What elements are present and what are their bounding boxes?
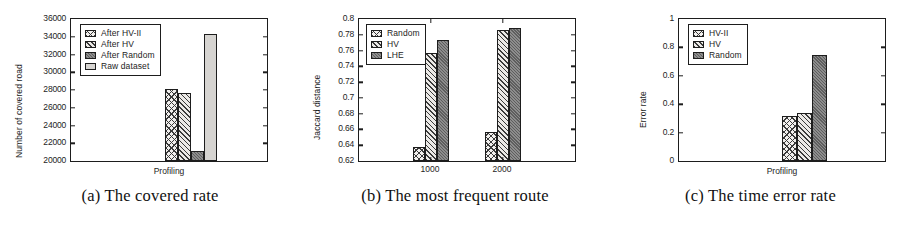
y-tick-mark bbox=[263, 72, 267, 73]
y-tick-label: 0.2 bbox=[663, 127, 674, 136]
bar-hv bbox=[797, 113, 812, 161]
y-tick-mark bbox=[263, 89, 267, 90]
bar-after-hv-ii bbox=[165, 89, 178, 161]
y-tick-label: 26000 bbox=[43, 103, 66, 112]
bar-after-random bbox=[191, 151, 204, 161]
y-tick-label: 24000 bbox=[43, 120, 66, 129]
legend-swatch-dark-icon bbox=[693, 52, 704, 59]
y-tick-label: 0.8 bbox=[663, 42, 674, 51]
x-tick-mark bbox=[502, 19, 503, 23]
panel-c-caption: (c) The time error rate bbox=[610, 186, 911, 206]
bar-raw-dataset bbox=[204, 34, 217, 161]
legend-item: HV bbox=[693, 39, 742, 50]
bar-random bbox=[413, 147, 425, 161]
y-tick-label: 0.66 bbox=[338, 124, 354, 133]
y-tick-mark bbox=[359, 50, 363, 51]
x-tick-mark bbox=[430, 157, 431, 161]
legend-label: After HV bbox=[101, 40, 134, 49]
y-tick-mark bbox=[263, 36, 267, 37]
legend-label: HV-II bbox=[709, 29, 728, 38]
legend-item: After Random bbox=[85, 50, 155, 61]
y-tick-mark bbox=[263, 143, 267, 144]
y-tick-mark bbox=[359, 145, 363, 146]
legend-label: Random bbox=[387, 29, 420, 38]
figure-panel-b: Jaccard distance 0.620.640.660.680.70.72… bbox=[300, 0, 610, 230]
y-tick-mark bbox=[881, 75, 885, 76]
y-tick-mark bbox=[881, 103, 885, 104]
y-tick-label: 0.8 bbox=[343, 14, 354, 23]
bar-lhe bbox=[437, 40, 449, 161]
y-tick-mark bbox=[263, 54, 267, 55]
legend-swatch-light-icon bbox=[85, 63, 96, 70]
legend-item: HV bbox=[371, 39, 420, 50]
x-tick-label: 2000 bbox=[493, 164, 512, 174]
y-tick-mark bbox=[571, 81, 575, 82]
bar-hv bbox=[425, 53, 437, 161]
y-tick-label: 34000 bbox=[43, 32, 66, 41]
y-tick-mark bbox=[571, 66, 575, 67]
y-tick-mark bbox=[71, 72, 75, 73]
y-tick-mark bbox=[359, 113, 363, 114]
y-tick-mark bbox=[571, 129, 575, 130]
legend-swatch-crosshatch-icon bbox=[371, 30, 382, 37]
panel-c-x-tick-label: Profiling bbox=[767, 166, 798, 176]
legend-item: LHE bbox=[371, 50, 420, 61]
x-tick-mark bbox=[502, 157, 503, 161]
panel-b-caption: (b) The most frequent route bbox=[300, 186, 610, 206]
y-tick-label: 0.72 bbox=[338, 77, 354, 86]
figure-panel-a: Number of covered road 20000220002400026… bbox=[0, 0, 300, 230]
y-tick-label: 30000 bbox=[43, 67, 66, 76]
y-tick-mark bbox=[571, 34, 575, 35]
y-tick-label: 0.64 bbox=[338, 140, 354, 149]
legend-swatch-hatch-icon bbox=[371, 41, 382, 48]
legend-item: After HV-II bbox=[85, 28, 155, 39]
legend-label: LHE bbox=[387, 51, 404, 60]
bar-hv bbox=[497, 30, 509, 161]
y-tick-label: 0.7 bbox=[343, 93, 354, 102]
y-tick-mark bbox=[359, 129, 363, 130]
legend-label: Random bbox=[709, 51, 742, 60]
y-tick-label: 22000 bbox=[43, 138, 66, 147]
y-tick-mark bbox=[359, 66, 363, 67]
y-tick-mark bbox=[71, 107, 75, 108]
legend-label: After HV-II bbox=[101, 29, 141, 38]
x-tick-mark bbox=[430, 19, 431, 23]
y-tick-label: 32000 bbox=[43, 49, 66, 58]
legend-swatch-dark-icon bbox=[85, 52, 96, 59]
y-tick-label: 36000 bbox=[43, 14, 66, 23]
y-tick-mark bbox=[359, 34, 363, 35]
bar-hv-ii bbox=[782, 116, 797, 161]
panel-a-plot-area: After HV-II After HV After Random Raw da… bbox=[70, 18, 268, 162]
y-tick-mark bbox=[679, 47, 683, 48]
panel-c-plot-area: HV-II HV Random bbox=[678, 18, 886, 162]
y-tick-label: 0.6 bbox=[663, 71, 674, 80]
panel-a-legend: After HV-II After HV After Random Raw da… bbox=[80, 24, 161, 76]
y-tick-mark bbox=[263, 107, 267, 108]
y-tick-label: 20000 bbox=[43, 156, 66, 165]
legend-label: HV bbox=[709, 40, 721, 49]
legend-item: Random bbox=[693, 50, 742, 61]
legend-swatch-hatch-icon bbox=[85, 41, 96, 48]
y-tick-mark bbox=[71, 89, 75, 90]
y-tick-label: 0.74 bbox=[338, 61, 354, 70]
panel-a-x-tick-label: Profiling bbox=[154, 166, 185, 176]
figure-row: Number of covered road 20000220002400026… bbox=[0, 0, 911, 230]
y-tick-mark bbox=[679, 75, 683, 76]
legend-item: Raw dataset bbox=[85, 61, 155, 72]
y-tick-mark bbox=[359, 81, 363, 82]
legend-label: HV bbox=[387, 40, 399, 49]
y-tick-label: 0.4 bbox=[663, 99, 674, 108]
bar-random bbox=[485, 132, 497, 161]
y-tick-mark bbox=[71, 125, 75, 126]
panel-a-y-tick-labels: 2000022000240002600028000300003200034000… bbox=[22, 0, 66, 160]
y-tick-mark bbox=[679, 132, 683, 133]
y-tick-label: 0.78 bbox=[338, 30, 354, 39]
y-tick-mark bbox=[881, 132, 885, 133]
y-tick-mark bbox=[571, 113, 575, 114]
legend-swatch-hatch-icon bbox=[693, 41, 704, 48]
legend-swatch-crosshatch-icon bbox=[693, 30, 704, 37]
legend-item: After HV bbox=[85, 39, 155, 50]
legend-swatch-crosshatch-icon bbox=[85, 30, 96, 37]
y-tick-mark bbox=[71, 36, 75, 37]
y-tick-label: 28000 bbox=[43, 85, 66, 94]
